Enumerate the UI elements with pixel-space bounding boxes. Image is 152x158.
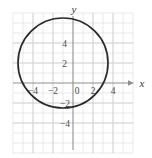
x-axis-name-label: x (139, 77, 145, 89)
y-tick-label--2: −2 (60, 99, 70, 109)
graph-figure: −4 −2 2 4 4 2 −2 −4 0 y x (0, 0, 152, 158)
origin-label: 0 (75, 86, 80, 96)
x-tick-label-2: 2 (91, 86, 96, 96)
x-tick-label-4: 4 (111, 86, 116, 96)
x-tick-label--2: −2 (48, 86, 58, 96)
x-tick-label--4: −4 (28, 86, 38, 96)
coordinate-plane-svg: −4 −2 2 4 4 2 −2 −4 0 y x (0, 0, 152, 158)
y-axis-name-label: y (71, 3, 77, 15)
y-tick-label--4: −4 (60, 119, 70, 129)
y-tick-label-4: 4 (62, 39, 67, 49)
y-tick-label-2: 2 (62, 59, 67, 69)
